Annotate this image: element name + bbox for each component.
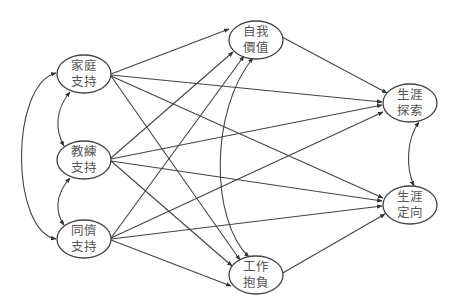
edge-coach-selfworth: [111, 52, 233, 158]
corr-family-peer: [22, 73, 57, 239]
corr-coach-peer: [58, 178, 70, 225]
node-label: 支持: [71, 239, 97, 254]
corr-exploration-orientation: [409, 122, 419, 186]
corr-family-coach: [58, 92, 70, 146]
node-label: 工作: [243, 259, 269, 274]
node-label: 支持: [71, 74, 97, 89]
node-self-worth: 自我 價值: [229, 21, 283, 59]
edge-peer-orientation: [111, 206, 382, 239]
edge-coach-orientation: [111, 161, 382, 201]
node-label: 支持: [71, 160, 97, 175]
node-label: 生涯: [397, 87, 423, 102]
edge-aspiration-orientation: [281, 214, 385, 274]
node-label: 價值: [243, 40, 269, 55]
path-diagram: 家庭 支持 教練 支持 同儕 支持 自我 價值 工作 抱負 生涯 探索 生涯 定…: [0, 0, 464, 308]
node-family-support: 家庭 支持: [57, 55, 111, 93]
node-peer-support: 同儕 支持: [57, 220, 111, 258]
node-label: 家庭: [71, 58, 97, 73]
edge-peer-aspiration: [111, 240, 231, 286]
node-career-exploration: 生涯 探索: [383, 84, 437, 122]
node-career-orientation: 生涯 定向: [383, 186, 437, 224]
node-label: 探索: [397, 103, 423, 118]
node-work-aspiration: 工作 抱負: [229, 256, 283, 294]
node-label: 定向: [397, 205, 423, 220]
edge-family-selfworth: [111, 29, 229, 74]
node-label: 同儕: [71, 223, 97, 238]
edge-coach-exploration: [111, 105, 382, 159]
edge-peer-exploration: [111, 112, 383, 238]
node-label: 自我: [243, 24, 269, 39]
edge-selfworth-exploration: [282, 37, 387, 93]
node-label: 教練: [71, 144, 97, 159]
edge-family-exploration: [111, 75, 382, 102]
edge-family-orientation: [111, 76, 383, 198]
edge-peer-selfworth: [111, 56, 244, 238]
node-coach-support: 教練 支持: [57, 141, 111, 179]
node-label: 抱負: [243, 275, 269, 290]
node-label: 生涯: [397, 189, 423, 204]
